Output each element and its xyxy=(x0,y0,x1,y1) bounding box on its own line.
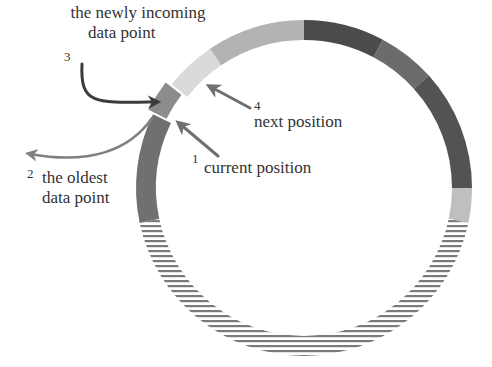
annotation-number-1: 1 xyxy=(192,151,199,167)
segment-light-1 xyxy=(449,188,472,223)
label-oldest-line2: data point xyxy=(42,188,110,207)
label-oldest-line1: the oldest xyxy=(42,168,108,187)
segment-light-2 xyxy=(210,20,304,65)
annotation-number-3: 3 xyxy=(64,49,71,65)
segment-medium-1 xyxy=(373,40,428,89)
circular-buffer-diagram: the newly incoming data point 3 2 the ol… xyxy=(0,0,492,367)
arrow-next-position xyxy=(211,87,250,108)
label-newly-incoming-line1: the newly incoming xyxy=(48,3,228,22)
annotation-arrows xyxy=(30,64,250,158)
label-next-position: next position xyxy=(254,112,342,131)
arrow-oldest-data-point xyxy=(30,118,152,158)
label-current-position: current position xyxy=(204,158,311,177)
label-newly-incoming: the newly incoming xyxy=(48,3,228,22)
arrow-current-position xyxy=(180,124,218,156)
segment-dark-1 xyxy=(304,20,383,57)
arrow-newly-incoming xyxy=(82,64,156,102)
annotation-number-2: 2 xyxy=(27,166,34,182)
label-newly-incoming-line2: data point xyxy=(88,23,156,42)
ring-segments xyxy=(136,20,472,356)
segment-empty-hatched xyxy=(140,219,469,356)
segment-dark-2 xyxy=(414,76,472,188)
